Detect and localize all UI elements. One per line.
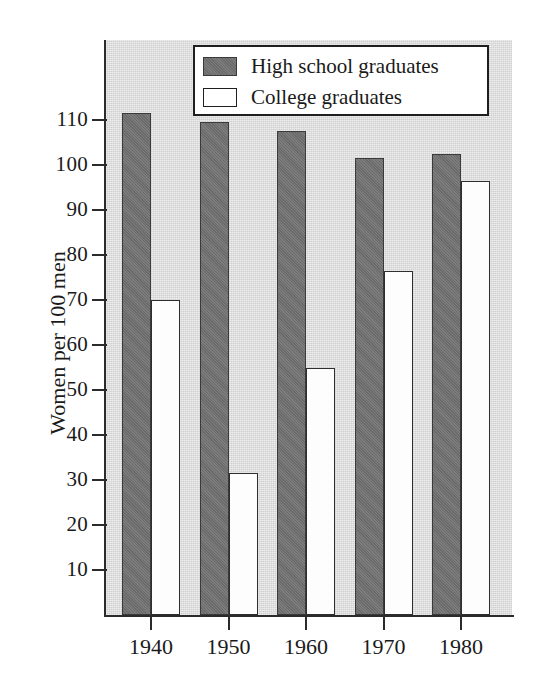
bar-1980-high-school <box>432 154 461 615</box>
y-tick-label: 20 <box>28 514 88 535</box>
y-tick-mark <box>92 344 107 346</box>
x-tick-mark <box>150 617 152 630</box>
bar-1960-high-school <box>277 131 306 615</box>
bar-1940-college <box>151 300 180 615</box>
legend-label: High school graduates <box>251 55 439 78</box>
y-tick-label: 10 <box>28 559 88 580</box>
x-tick-label: 1940 <box>111 634 191 660</box>
bar-1950-high-school <box>200 122 229 615</box>
x-tick-mark <box>383 617 385 630</box>
x-tick-mark <box>460 617 462 630</box>
y-axis-title: Women per 100 men <box>45 178 71 508</box>
y-tick-mark <box>92 119 107 121</box>
bar-1970-college <box>384 271 413 615</box>
dark-swatch-icon <box>203 57 237 76</box>
bar-1940-high-school <box>122 113 151 615</box>
bar-1980-college <box>461 181 490 615</box>
y-tick-mark <box>92 524 107 526</box>
y-tick-mark <box>92 209 107 211</box>
bar-1950-college <box>229 473 258 615</box>
bar-1970-high-school <box>355 158 384 615</box>
x-tick-label: 1980 <box>421 634 501 660</box>
y-tick-mark <box>92 569 107 571</box>
legend-label: College graduates <box>251 86 402 109</box>
light-swatch-icon <box>203 88 237 107</box>
bar-chart-figure: 102030405060708090100110 Women per 100 m… <box>0 0 536 689</box>
x-tick-label: 1960 <box>266 634 346 660</box>
bar-1960-college <box>306 368 335 616</box>
x-tick-mark <box>305 617 307 630</box>
y-tick-mark <box>92 479 107 481</box>
y-tick-mark <box>92 299 107 301</box>
y-tick-label: 110 <box>28 109 88 130</box>
chart-legend: High school graduates College graduates <box>193 45 489 116</box>
x-tick-mark <box>228 617 230 630</box>
y-tick-mark <box>92 434 107 436</box>
y-axis-line <box>104 40 106 617</box>
x-tick-label: 1970 <box>344 634 424 660</box>
y-tick-mark <box>92 389 107 391</box>
y-tick-mark <box>92 164 107 166</box>
legend-item-college: College graduates <box>203 82 479 113</box>
legend-item-high-school: High school graduates <box>203 51 479 82</box>
x-axis-line <box>104 615 514 617</box>
y-tick-mark <box>92 254 107 256</box>
y-tick-label: 100 <box>28 154 88 175</box>
x-tick-label: 1950 <box>189 634 269 660</box>
